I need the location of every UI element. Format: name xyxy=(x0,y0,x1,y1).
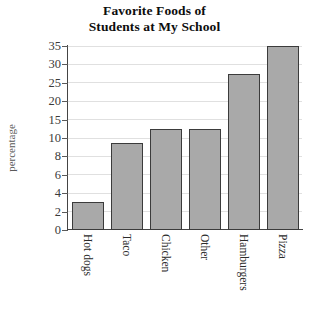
y-axis-title: percentage xyxy=(2,88,20,208)
y-tick-label: 8 xyxy=(31,150,61,162)
y-tick-label: 6 xyxy=(31,169,61,181)
bar xyxy=(111,143,143,230)
x-category-label: Chicken xyxy=(159,234,173,318)
chart-title-line-2: Students at My School xyxy=(0,19,309,35)
y-tick-label: 0 xyxy=(31,224,61,236)
x-category-label-text: Hamburgers xyxy=(238,234,250,291)
y-tick-label: 15 xyxy=(31,114,61,126)
x-category-label-text: Other xyxy=(199,234,211,260)
y-tick-mark xyxy=(62,230,68,231)
y-tick-label: 30 xyxy=(31,58,61,70)
x-category-label-text: Chicken xyxy=(160,234,172,272)
y-tick-label: 4 xyxy=(31,187,61,199)
bar xyxy=(228,74,260,230)
bar xyxy=(150,129,182,230)
x-category-label: Hot dogs xyxy=(81,234,95,318)
y-tick-label: 20 xyxy=(31,95,61,107)
y-tick-label: 35 xyxy=(31,40,61,52)
plot-area xyxy=(68,46,302,230)
chart-title: Favorite Foods of Students at My School xyxy=(0,3,309,35)
bar xyxy=(267,46,299,230)
x-category-label-text: Pizza xyxy=(277,234,289,259)
x-category-label-text: Hot dogs xyxy=(82,234,94,276)
x-category-label: Other xyxy=(198,234,212,318)
bar-chart-figure: Favorite Foods of Students at My School … xyxy=(0,0,309,322)
y-axis-title-text: percentage xyxy=(5,124,17,172)
bar xyxy=(189,129,221,230)
y-tick-label: 10 xyxy=(31,132,61,144)
x-category-label: Hamburgers xyxy=(237,234,251,318)
y-tick-label: 25 xyxy=(31,77,61,89)
x-category-label: Pizza xyxy=(276,234,290,318)
bar xyxy=(72,202,104,230)
x-category-label: Taco xyxy=(120,234,134,318)
x-category-label-text: Taco xyxy=(121,234,133,256)
chart-title-line-1: Favorite Foods of xyxy=(0,3,309,19)
y-tick-label: 2 xyxy=(31,206,61,218)
